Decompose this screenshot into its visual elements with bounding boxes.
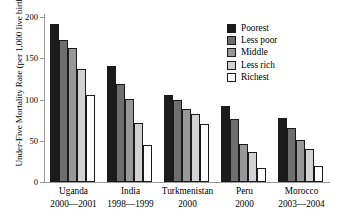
y-tick-mark [40,17,44,18]
bar-group [102,14,159,183]
legend-swatch [227,61,236,70]
legend-swatch [227,48,236,57]
legend: PoorestLess poorMiddleLess richRichest [227,22,327,84]
bar [173,100,182,182]
bar-group [159,14,216,183]
bar [296,140,305,182]
bar [68,48,77,182]
bar [257,168,266,182]
bar [200,124,209,182]
y-tick-mark [40,100,44,101]
x-axis-group-label: Morocco2003—2004 [260,185,339,211]
y-tick-mark [40,182,44,183]
bar [107,66,116,182]
y-tick-label: 150 [25,53,38,63]
bar [314,166,323,183]
y-tick-label: 100 [25,95,38,105]
legend-item: Middle [227,47,327,59]
legend-swatch [227,73,236,82]
legend-label: Middle [241,48,268,57]
bar [239,144,248,182]
bar [164,95,173,182]
y-tick-label: 50 [29,136,38,146]
legend-label: Less rich [241,61,275,70]
legend-label: Poorest [241,24,269,33]
bar [143,145,152,182]
x-label-country: Morocco [260,185,339,198]
legend-item: Less poor [227,34,327,46]
bar [221,106,230,182]
y-tick-label: 200 [25,12,38,22]
legend-label: Richest [241,73,269,82]
bar [182,109,191,182]
x-axis-labels: Uganda2000—2001India1998—1999Turkmenista… [45,185,330,223]
bar [287,128,296,182]
legend-swatch [227,24,236,33]
bar [50,24,59,182]
bar [116,84,125,182]
legend-item: Richest [227,72,327,84]
y-axis-title: Under-Five Mortality Rate (per 1,000 liv… [15,0,24,174]
legend-swatch [227,36,236,45]
bar [77,69,86,182]
x-label-years: 2003—2004 [260,198,339,211]
legend-item: Less rich [227,59,327,71]
bar [134,123,143,182]
bar [86,95,95,182]
bar [305,149,314,182]
bar-group [45,14,102,183]
legend-label: Less poor [241,36,277,45]
y-tick-mark [40,58,44,59]
bar [230,119,239,182]
bar [59,40,68,182]
y-tick-mark [40,141,44,142]
under-five-mortality-bar-chart: Under-Five Mortality Rate (per 1,000 liv… [0,0,339,223]
bar [125,99,134,182]
bar [191,114,200,182]
bar [278,118,287,182]
legend-item: Poorest [227,22,327,34]
bar [248,152,257,182]
